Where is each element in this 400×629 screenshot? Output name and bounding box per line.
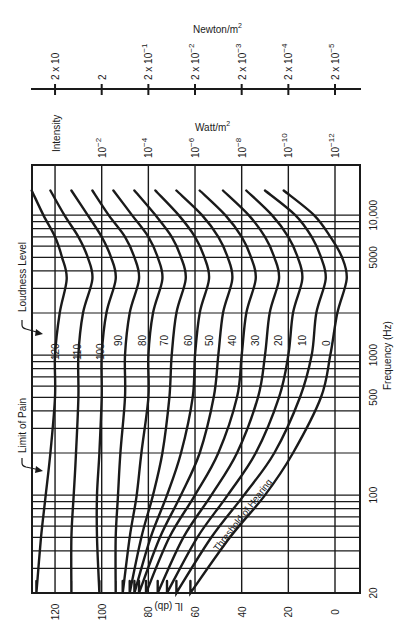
il-axis-ticks: 020406080100120 <box>50 603 341 620</box>
il-tick-label: 120 <box>50 603 61 620</box>
frequency-tick-label: 5000 <box>368 246 379 269</box>
il-axis-label: IL (db) <box>154 601 183 612</box>
curve-label: 30 <box>250 334 261 346</box>
il-tick-label: 60 <box>190 606 201 618</box>
watt-unit-label: Watt/m2 <box>195 120 230 133</box>
curve-label: 70 <box>159 334 170 346</box>
svg-text:Loudness Level: Loudness Level <box>17 242 28 312</box>
loudness-curve-30 <box>158 191 279 594</box>
loudness-level-annotation: Loudness Level <box>17 242 43 336</box>
loudness-curve-10 <box>176 191 325 594</box>
newton-tick-label: 2 x 10 <box>50 52 61 80</box>
svg-text:Limit of Pain: Limit of Pain <box>17 398 28 453</box>
il-tick-label: 40 <box>237 606 248 618</box>
threshold-of-hearing-label: Threshold of Hearing <box>211 477 274 554</box>
watt-tick-label: 10−12 <box>327 133 341 158</box>
curve-label: 90 <box>113 334 124 346</box>
newton-tick-label: 2 x 10−2 <box>187 43 201 80</box>
loudness-curve-80 <box>113 191 162 594</box>
newton-tick-label: 2 x 10−4 <box>280 43 294 80</box>
il-tick-label: 100 <box>97 603 108 620</box>
watt-tick-label: 10−2 <box>94 137 108 158</box>
newton-tick-label: 2 x 10−5 <box>327 43 341 80</box>
loudness-curves <box>32 191 347 594</box>
arrow-icon <box>35 329 43 336</box>
il-tick-label: 80 <box>143 606 154 618</box>
intensity-label: Intensity <box>51 115 62 152</box>
curve-label: 50 <box>204 334 215 346</box>
frequency-axis-label: Frequency (Hz) <box>382 321 393 390</box>
watt-tick-label: 10−8 <box>234 137 248 158</box>
curve-label: 120 <box>50 343 61 360</box>
newton-axis: 2 x 1022 x 10−12 x 10−22 x 10−32 x 10−42… <box>31 22 361 95</box>
frequency-tick-label: 100 <box>368 486 379 503</box>
loudness-curve-120 <box>32 191 67 594</box>
curve-label: 40 <box>227 334 238 346</box>
frequency-tick-label: 1000 <box>368 344 379 367</box>
watt-tick-label: 10−4 <box>140 137 154 158</box>
limit-of-pain-annotation: Limit of Pain <box>17 398 43 473</box>
frequency-axis-ticks: 201005001000500010,000 <box>368 199 379 598</box>
frequency-tick-label: 500 <box>368 389 379 406</box>
plot-grid <box>32 165 360 593</box>
curve-label: 100 <box>95 343 106 360</box>
curve-label: 60 <box>183 334 194 346</box>
curve-label: 10 <box>297 334 308 346</box>
curve-label: 20 <box>273 334 284 346</box>
equal-loudness-chart: 2 x 1022 x 10−12 x 10−22 x 10−32 x 10−42… <box>0 0 400 629</box>
newton-tick-label: 2 <box>97 74 108 80</box>
loudness-curve-70 <box>130 191 186 594</box>
il-tick-label: 0 <box>330 609 341 615</box>
il-tick-label: 20 <box>283 606 294 618</box>
watt-tick-label: 10−10 <box>280 133 294 158</box>
frequency-tick-label: 20 <box>368 587 379 599</box>
newton-unit-label: Newton/m2 <box>193 22 242 35</box>
watt-axis: 10−210−410−610−810−1010−12 Watt/m2 Inten… <box>32 115 360 165</box>
arrow-icon <box>35 466 43 473</box>
curve-label: 110 <box>72 344 83 360</box>
loudness-curve-110 <box>50 191 92 594</box>
newton-tick-label: 2 x 10−1 <box>140 43 154 80</box>
loudness-curve-90 <box>92 191 139 594</box>
frequency-tick-label: 10,000 <box>368 199 379 230</box>
curve-label: 0 <box>321 340 332 346</box>
newton-tick-label: 2 x 10−3 <box>234 43 248 80</box>
watt-tick-label: 10−6 <box>187 137 201 158</box>
curve-label: 80 <box>137 334 148 346</box>
